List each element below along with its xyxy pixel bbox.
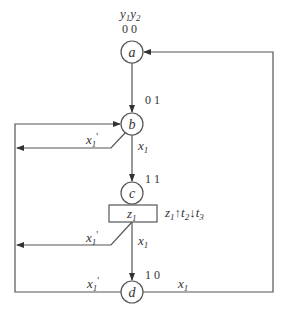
label-b-false: x1' [85, 131, 98, 149]
state-c-code: 1 1 [145, 172, 160, 186]
state-b: b [121, 113, 143, 135]
edge-d-false-to-b [15, 124, 121, 292]
state-d-code: 1 0 [145, 268, 160, 282]
svg-text:d: d [129, 285, 137, 300]
state-a-code: 0 0 [122, 22, 137, 36]
state-b-code: 0 1 [145, 93, 160, 107]
edge-box-false [17, 222, 132, 245]
label-box-true: x1 [137, 233, 148, 250]
state-diagram: y1y2 0 0 0 1 1 1 1 0 a b c d z1 z1↑t2↓t [0, 0, 288, 316]
svg-text:b: b [129, 117, 136, 132]
state-a: a [121, 41, 143, 63]
label-d-true: x1 [177, 276, 188, 293]
output-box-z1: z1 [109, 205, 157, 223]
header-vars: y1y2 [118, 6, 141, 23]
edge-b-false [17, 133, 125, 148]
svg-text:a: a [129, 45, 136, 60]
label-b-true: x1 [137, 138, 148, 155]
svg-text:c: c [129, 186, 136, 201]
state-d: d [121, 281, 143, 303]
edge-d-true-to-a [143, 52, 273, 292]
label-box-false: x1' [85, 229, 98, 247]
label-d-false: x1' [86, 275, 99, 293]
state-c: c [121, 182, 143, 204]
timing-annotation: z1↑t2↓t3 [164, 205, 204, 222]
